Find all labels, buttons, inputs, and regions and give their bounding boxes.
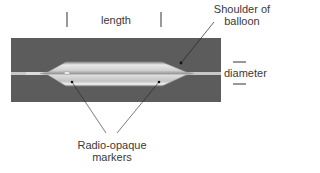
markers-label-line2: markers — [66, 151, 158, 163]
length-label: length — [96, 14, 136, 26]
shoulder-pointer-dot — [180, 62, 183, 65]
shoulder-label-line2: balloon — [208, 15, 276, 27]
diameter-label: diameter — [224, 67, 267, 79]
shoulder-label-line1: Shoulder of — [208, 3, 276, 15]
markers-label-line1: Radio-opaque — [66, 139, 158, 151]
shoulder-of-balloon-label: Shoulder of balloon — [208, 3, 276, 27]
marker-pointer-dot-right — [158, 81, 161, 84]
radio-opaque-markers-label: Radio-opaque markers — [66, 139, 158, 163]
marker-band-left — [64, 72, 70, 75]
marker-pointer-dot-left — [71, 81, 74, 84]
